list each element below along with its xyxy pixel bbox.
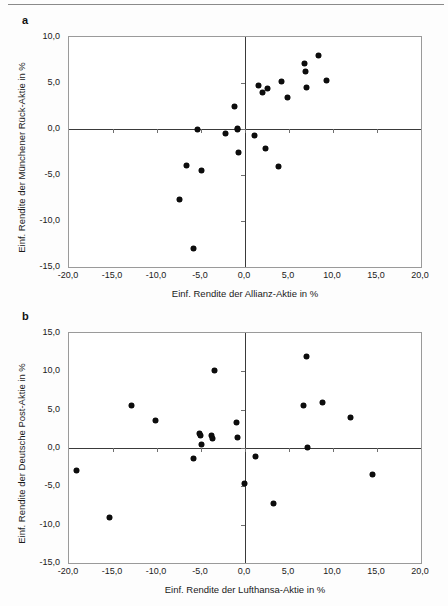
scatter-point: [304, 354, 309, 359]
y-tick-label: 10,0: [42, 365, 60, 375]
x-axis-tick: [333, 129, 334, 133]
scatter-point: [276, 164, 281, 169]
y-axis-tick: [241, 410, 245, 411]
scatter-point: [199, 168, 204, 173]
y-axis-tick: [241, 221, 245, 222]
top-divider-rule: [8, 4, 444, 5]
x-tick-label: -20,0: [58, 566, 79, 576]
scatter-point: [129, 403, 134, 408]
panel-label-a: a: [22, 14, 28, 26]
x-axis-tick: [113, 129, 114, 133]
scatter-point: [234, 420, 239, 425]
x-tick-label: 15,0: [367, 270, 385, 280]
scatter-point: [191, 456, 196, 461]
scatter-point: [303, 69, 308, 74]
scatter-point: [324, 78, 329, 83]
scatter-point: [242, 481, 247, 486]
scatter-point: [199, 442, 204, 447]
scatter-point: [260, 90, 265, 95]
x-axis-tick: [333, 448, 334, 452]
x-axis-tick: [201, 448, 202, 452]
y-tick-label: 5,0: [47, 77, 60, 87]
x-tick-label: 5,0: [282, 566, 295, 576]
x-axis-tick: [157, 129, 158, 133]
scatter-point: [263, 146, 268, 151]
x-tick-label: -5,0: [192, 270, 208, 280]
y-tick-label: 10,0: [42, 31, 60, 41]
y-tick-label: -10,0: [39, 519, 60, 529]
x-tick-label: 15,0: [367, 566, 385, 576]
x-tick-label: -15,0: [102, 270, 123, 280]
y-axis-tick: [241, 525, 245, 526]
plot-area-a: [68, 36, 422, 268]
scatter-point: [279, 79, 284, 84]
scatter-point: [256, 83, 261, 88]
scatter-point: [285, 95, 290, 100]
y-tick-label: 15,0: [42, 327, 60, 337]
y-tick-label: 5,0: [47, 404, 60, 414]
y-axis-tick: [241, 175, 245, 176]
x-tick-label: -10,0: [146, 270, 167, 280]
x-axis-tick: [157, 448, 158, 452]
scatter-point: [304, 85, 309, 90]
scatter-point: [301, 403, 306, 408]
scatter-point: [302, 61, 307, 66]
scatter-point: [265, 86, 270, 91]
scatter-point: [191, 246, 196, 251]
y-axis-tick: [241, 486, 245, 487]
scatter-point: [212, 368, 217, 373]
x-axis-tick-labels-b: -20,0-15,0-10,0-5,00,05,010,015,020,0: [68, 566, 422, 580]
chart-panel-a: a 10,05,00,0-5,0-10,0-15,0 -20,0-15,0-10…: [0, 10, 448, 306]
panel-label-b: b: [22, 310, 29, 322]
x-axis-tick: [289, 129, 290, 133]
scatter-point: [320, 400, 325, 405]
scatter-point: [235, 127, 240, 132]
x-axis-tick-labels-a: -20,0-15,0-10,0-5,00,05,010,015,020,0: [68, 270, 422, 284]
scatter-point: [236, 150, 241, 155]
x-tick-label: 20,0: [411, 270, 429, 280]
x-tick-label: 0,0: [238, 566, 251, 576]
x-axis-tick: [201, 129, 202, 133]
x-axis-tick: [377, 448, 378, 452]
x-axis-title-a: Einf. Rendite der Allianz-Aktie in %: [68, 288, 422, 299]
scatter-point: [252, 133, 257, 138]
x-tick-label: -15,0: [102, 566, 123, 576]
scatter-point: [223, 131, 228, 136]
x-tick-label: -20,0: [58, 270, 79, 280]
scatter-point: [253, 454, 258, 459]
scatter-point: [153, 418, 158, 423]
scatter-point: [348, 415, 353, 420]
scatter-point: [107, 515, 112, 520]
y-axis-tick: [241, 129, 245, 130]
scatter-point: [210, 436, 215, 441]
x-axis-tick: [245, 129, 246, 133]
scatter-point: [184, 163, 189, 168]
scatter-point: [370, 472, 375, 477]
x-axis-tick: [245, 448, 246, 452]
x-axis-tick: [113, 448, 114, 452]
y-tick-label: -5,0: [44, 169, 60, 179]
x-tick-label: 10,0: [323, 270, 341, 280]
x-tick-label: -5,0: [192, 566, 208, 576]
y-tick-label: 0,0: [47, 123, 60, 133]
y-tick-label: 0,0: [47, 442, 60, 452]
y-tick-label: -10,0: [39, 215, 60, 225]
x-tick-label: 0,0: [238, 270, 251, 280]
y-axis-tick: [241, 448, 245, 449]
plot-area-b: [68, 332, 422, 564]
x-tick-label: 5,0: [282, 270, 295, 280]
x-axis-tick: [289, 448, 290, 452]
y-axis-tick: [241, 371, 245, 372]
x-tick-label: -10,0: [146, 566, 167, 576]
chart-panel-b: b 15,010,05,00,0-5,0-10,0-15,0 -20,0-15,…: [0, 306, 448, 602]
scatter-point: [235, 435, 240, 440]
scatter-point: [305, 445, 310, 450]
figure-page: a 10,05,00,0-5,0-10,0-15,0 -20,0-15,0-10…: [0, 0, 448, 606]
scatter-point: [316, 53, 321, 58]
scatter-point: [177, 197, 182, 202]
x-tick-label: 20,0: [411, 566, 429, 576]
zero-line-vertical: [245, 37, 246, 267]
x-tick-label: 10,0: [323, 566, 341, 576]
scatter-point: [195, 127, 200, 132]
scatter-point: [232, 104, 237, 109]
